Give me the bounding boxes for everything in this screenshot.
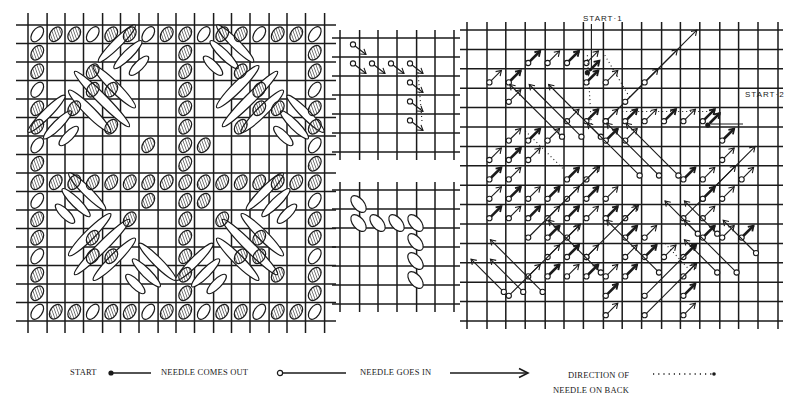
legend-needle-out-symbol: [276, 368, 348, 378]
working-diagram-panel: START·1 START·2: [460, 0, 783, 335]
start-1-label: START·1: [583, 14, 623, 23]
step-arrows-diagram: [330, 20, 460, 170]
finished-pattern-diagram: [0, 0, 340, 335]
finished-pattern-panel: [0, 0, 340, 335]
legend-needle-in-label: NEEDLE GOES IN: [360, 367, 431, 377]
working-diagram: [460, 0, 783, 335]
legend-direction-symbol: [652, 369, 718, 379]
step-stitches-diagram: [330, 170, 460, 320]
legend-needle-in-symbol: [449, 367, 531, 379]
legend-start-symbol: [107, 368, 152, 378]
legend-needle-out-label: NEEDLE COMES OUT: [161, 367, 248, 377]
step-stitches-panel: [330, 170, 460, 320]
step-arrows-panel: [330, 20, 460, 170]
legend: START NEEDLE COMES OUT NEEDLE GOES IN DI…: [0, 355, 783, 405]
legend-start-label: START: [70, 367, 97, 377]
legend-direction-label-line1: DIRECTION OF: [568, 370, 629, 380]
start-2-label: START·2: [745, 90, 785, 99]
legend-direction-label-line2: NEEDLE ON BACK: [553, 385, 629, 395]
